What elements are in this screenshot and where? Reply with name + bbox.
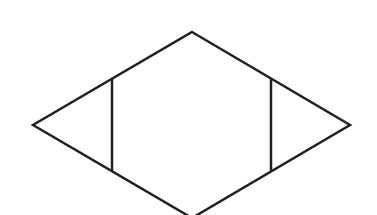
rhombus-outline: [33, 32, 350, 215]
diagram-canvas: [0, 0, 377, 215]
